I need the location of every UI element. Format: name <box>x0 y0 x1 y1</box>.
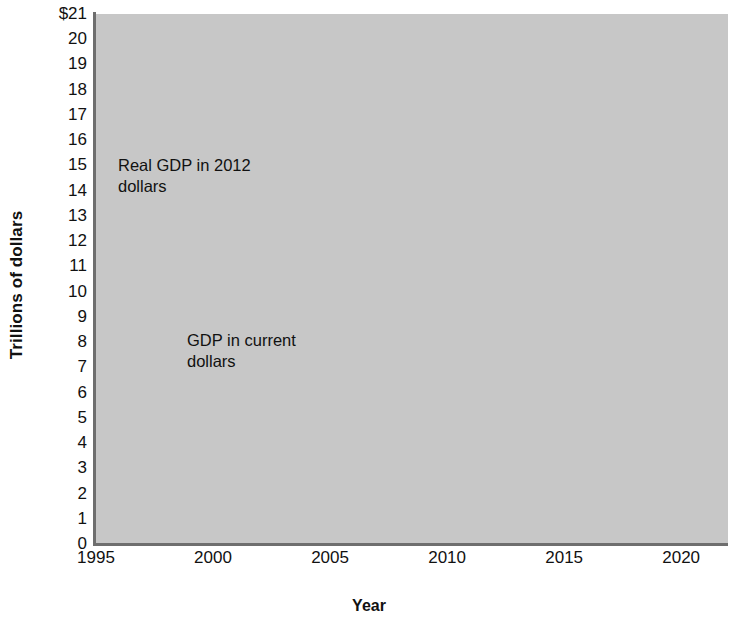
y-axis-tick-label: 3 <box>25 459 87 476</box>
y-axis-tick-label: 5 <box>25 409 87 426</box>
y-axis-tick-label: $21 <box>25 5 87 22</box>
y-axis-tick-label: 9 <box>25 308 87 325</box>
y-axis-tick-label: 4 <box>25 434 87 451</box>
y-axis-tick-label: 20 <box>25 30 87 47</box>
x-axis-tick-label: 2000 <box>194 548 232 568</box>
annotation-current-gdp: GDP in current dollars <box>187 330 296 372</box>
plot-area <box>96 14 728 544</box>
gdp-line-chart: Trillions of dollars 0123456789101112131… <box>0 0 738 625</box>
y-axis-title: Trillions of dollars <box>7 211 27 359</box>
y-axis-tick-label: 10 <box>25 283 87 300</box>
y-axis-tick-label: 1 <box>25 510 87 527</box>
x-axis-tick-label: 1995 <box>77 548 115 568</box>
y-axis-tick-label: 15 <box>25 156 87 173</box>
y-axis-tick-label: 14 <box>25 182 87 199</box>
y-axis-tick-label: 6 <box>25 384 87 401</box>
x-axis-tick-label: 2015 <box>545 548 583 568</box>
y-axis-tick-label: 2 <box>25 485 87 502</box>
plot-background <box>96 14 728 544</box>
y-axis-tick-label: 16 <box>25 131 87 148</box>
y-axis-line <box>93 12 96 546</box>
y-axis-tick-label: 17 <box>25 106 87 123</box>
x-axis-tick-label: 2010 <box>428 548 466 568</box>
x-axis-title: Year <box>0 597 738 615</box>
y-axis-tick-label: 7 <box>25 358 87 375</box>
x-axis-line <box>93 543 728 546</box>
y-axis-tick-label: 13 <box>25 207 87 224</box>
x-axis-tick-label: 2005 <box>311 548 349 568</box>
y-axis-tick-label: 12 <box>25 232 87 249</box>
y-axis-tick-label: 19 <box>25 55 87 72</box>
annotation-real-gdp: Real GDP in 2012 dollars <box>118 155 251 197</box>
y-axis-tick-label: 8 <box>25 333 87 350</box>
y-axis-tick-labels: 01234567891011121314151617181920$21 <box>25 0 87 625</box>
y-axis-tick-label: 11 <box>25 257 87 274</box>
x-axis-tick-label: 2020 <box>662 548 700 568</box>
y-axis-tick-label: 18 <box>25 81 87 98</box>
